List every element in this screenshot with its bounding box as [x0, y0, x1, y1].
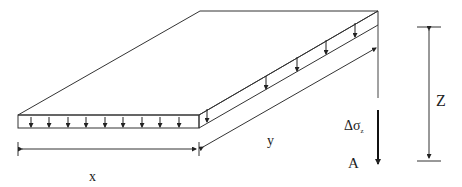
slab-top-face	[18, 11, 378, 115]
x-dimension	[18, 142, 199, 156]
x-label: x	[89, 169, 96, 184]
loaded-area-diagram: x y Z Δσz A	[0, 0, 462, 187]
z-label: Z	[436, 92, 446, 109]
stress-label: Δσz	[344, 118, 364, 135]
front-load-arrows	[31, 117, 179, 127]
slab-side-face	[199, 11, 378, 128]
point-a-label: A	[348, 155, 359, 171]
stress-subscript: z	[361, 127, 364, 135]
stress-symbol: Δσ	[344, 118, 361, 133]
slab-front-face	[18, 115, 199, 128]
slab	[18, 11, 378, 128]
y-label: y	[267, 133, 274, 148]
